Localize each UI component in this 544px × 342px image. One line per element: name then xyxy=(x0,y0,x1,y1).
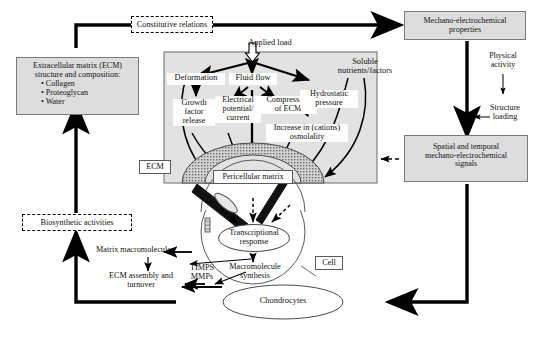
node-macromolecule-synthesis[interactable]: Macromolecule synthesis xyxy=(221,263,289,281)
soluble-line2: nutrients/factors xyxy=(326,66,404,75)
cell-tag-label: Cell xyxy=(322,258,336,267)
node-ecm-assembly-turnover[interactable]: ECM assembly and turnover xyxy=(100,272,182,290)
node-timps-mmps[interactable]: TIMPS MMPs xyxy=(183,264,221,282)
node-ecm-composition[interactable]: Extracellular matrix (ECM) structure and… xyxy=(16,57,139,115)
matrix-macromolecules-label: Matrix macromolecules xyxy=(96,245,174,254)
node-deformation[interactable]: Deformation xyxy=(167,73,225,85)
fluid-flow-label: Fluid flow xyxy=(235,73,270,82)
node-biosynthetic-activities[interactable]: Biosynthetic activities xyxy=(22,214,132,231)
physical-activity-line2: activity xyxy=(481,61,525,70)
node-mechano-electrochemical-properties[interactable]: Mechano-electrochemical properties xyxy=(404,11,526,40)
node-soluble-nutrients[interactable]: Soluble nutrients/factors xyxy=(326,57,404,75)
ecm-bullet-water: • Water xyxy=(23,98,132,107)
ecm-tag-label: ECM xyxy=(146,162,164,171)
deformation-label: Deformation xyxy=(175,73,218,82)
pericellular-matrix-label: Pericellular matrix xyxy=(222,172,283,181)
node-spatial-temporal-signals[interactable]: Spatial and temporal mechano-electrochem… xyxy=(404,135,528,182)
chondrocytes-label: Chondrocytes xyxy=(260,296,307,305)
timps-line2: MMPs xyxy=(183,273,221,282)
node-constitutive-relations[interactable]: Constitutive relations xyxy=(131,16,213,33)
hydrostatic-line2: pressure xyxy=(300,99,358,108)
node-ecm-tag[interactable]: ECM xyxy=(139,160,171,174)
biosynthetic-activities-label: Biosynthetic activities xyxy=(41,218,114,227)
node-physical-activity[interactable]: Physical activity xyxy=(481,52,525,70)
node-osmolality-increase[interactable]: Increase in (cations) osmolality xyxy=(266,124,348,142)
transcriptional-line2: response xyxy=(219,238,289,247)
ecm-bullet-proteoglycan: • Proteoglycan xyxy=(23,89,132,98)
node-electrical-potential[interactable]: Electrical potential/ current xyxy=(215,96,261,123)
ecm-assembly-line2: turnover xyxy=(100,281,182,290)
spatial-line3: signals xyxy=(405,160,527,169)
node-pericellular-matrix[interactable]: Pericellular matrix xyxy=(213,170,293,184)
node-matrix-macromolecules[interactable]: Matrix macromolecules xyxy=(86,246,184,255)
growth-factor-line3: release xyxy=(173,117,215,126)
structure-loading-line2: loading xyxy=(481,113,529,122)
constitutive-relations-label: Constitutive relations xyxy=(137,20,207,29)
cell-leader-line xyxy=(301,266,316,276)
node-growth-factor-release[interactable]: Growth factor release xyxy=(173,99,215,126)
diagram-canvas: Constitutive relations Mechano-electroch… xyxy=(0,0,544,342)
node-cell-tag[interactable]: Cell xyxy=(315,256,343,270)
mechano-props-line2: properties xyxy=(405,26,525,35)
node-structure-loading[interactable]: Structure loading xyxy=(481,104,529,122)
electrical-line3: current xyxy=(215,114,261,123)
node-chondrocytes[interactable]: Chondrocytes xyxy=(243,296,323,305)
ecm-composition-line2: structure and composition: xyxy=(23,71,132,80)
node-fluid-flow[interactable]: Fluid flow xyxy=(229,73,277,85)
node-transcriptional-response[interactable]: Transcriptional response xyxy=(218,224,290,252)
osmolality-line2: osmolality xyxy=(266,133,348,142)
applied-load-label: Applied load xyxy=(248,38,292,47)
macromolecule-line2: synthesis xyxy=(221,272,289,281)
label-applied-load: Applied load xyxy=(228,38,312,47)
node-hydrostatic-pressure[interactable]: Hydrostatic pressure xyxy=(300,90,358,108)
soluble-line1: Soluble xyxy=(326,57,404,66)
